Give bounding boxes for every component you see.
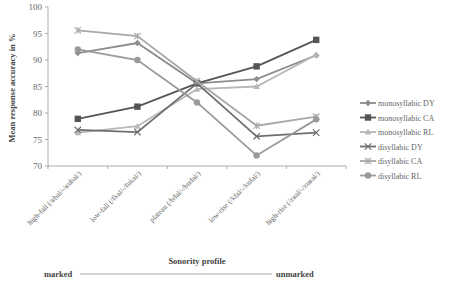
y-tick-label: 70 bbox=[33, 161, 43, 171]
legend-label: monosyllabic RL bbox=[378, 128, 433, 137]
line-chart: 707580859095100 high-fall (/ʁbal/-/ʁubal… bbox=[0, 0, 451, 281]
legend-item: disyllabic CA bbox=[360, 157, 422, 166]
x-axis: high-fall (/ʁbal/-/ʁubal/)low-fall (/fka… bbox=[25, 166, 346, 227]
x-tick-label: low-rise (/kfal/-/kufal/) bbox=[207, 169, 263, 225]
legend-label: disyllabic CA bbox=[378, 157, 422, 166]
series-disyllabic-ca bbox=[75, 27, 320, 129]
legend-label: monosyllabic CA bbox=[378, 114, 434, 123]
legend-label: disyllabic RL bbox=[378, 172, 421, 181]
plot-area bbox=[75, 27, 320, 158]
unmarked-label: unmarked bbox=[276, 269, 314, 279]
marked-label: marked bbox=[44, 269, 73, 279]
legend-label: monosyllabic DY bbox=[378, 99, 435, 108]
x-tick-label: plateau (/bdal/-/budal/) bbox=[147, 169, 202, 224]
y-tick-label: 80 bbox=[33, 108, 43, 118]
x-tick-label: low-fall (/fkal/-/fukal/) bbox=[88, 169, 143, 224]
y-tick-label: 75 bbox=[33, 135, 43, 145]
legend-item: disyllabic RL bbox=[360, 172, 421, 181]
legend-item: monosyllabic DY bbox=[360, 99, 435, 108]
series-disyllabic-rl bbox=[75, 46, 320, 158]
legend-item: monosyllabic RL bbox=[360, 128, 433, 137]
x-tick-label: high-fall (/ʁbal/-/ʁubal/) bbox=[25, 169, 83, 227]
y-axis: 707580859095100 bbox=[29, 2, 49, 171]
x-axis-title: Sonority profile bbox=[168, 256, 225, 266]
x-tick-label: high-rise (/zʁal/-/zuʁal/) bbox=[264, 169, 322, 227]
y-axis-title: Mean response accuracy in % bbox=[7, 34, 17, 143]
legend-item: monosyllabic CA bbox=[360, 114, 434, 123]
y-tick-label: 100 bbox=[29, 2, 43, 12]
y-tick-label: 90 bbox=[33, 55, 43, 65]
y-tick-label: 85 bbox=[33, 82, 43, 92]
y-tick-label: 95 bbox=[33, 29, 43, 39]
legend: monosyllabic DYmonosyllabic CAmonosyllab… bbox=[360, 99, 435, 181]
legend-item: disyllabic DY bbox=[360, 143, 423, 152]
legend-label: disyllabic DY bbox=[378, 143, 423, 152]
